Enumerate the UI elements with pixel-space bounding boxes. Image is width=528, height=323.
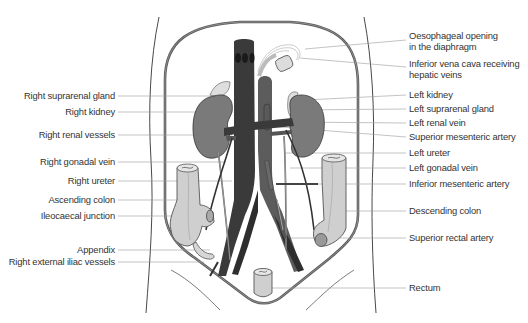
groin-line-left — [171, 270, 220, 310]
label-inferior-mesenteric-artery: Inferior mesenteric artery — [409, 178, 509, 189]
body-outline-right — [364, 17, 376, 313]
groin-line-right — [306, 270, 354, 310]
label-right-renal-vessels: Right renal vessels — [39, 129, 115, 140]
label-ascending-colon: Ascending colon — [48, 194, 115, 205]
label-right-suprarenal-gland: Right suprarenal gland — [24, 90, 115, 101]
body-outline-left — [146, 17, 159, 313]
rectum — [254, 269, 272, 297]
label-oesophageal-opening-line2: in the diaphragm — [409, 41, 498, 52]
ascending-colon — [170, 164, 214, 259]
label-oesophageal-opening-line1: Oesophageal opening — [409, 30, 498, 41]
label-left-suprarenal-gland: Left suprarenal gland — [409, 103, 494, 114]
label-superior-rectal-artery: Superior rectal artery — [409, 232, 493, 243]
label-left-kidney: Left kidney — [409, 89, 453, 100]
label-inferior-vena-cava-line2: hepatic veins — [409, 69, 519, 80]
label-left-gonadal-vein: Left gonadal vein — [409, 162, 478, 173]
right-kidney — [193, 95, 232, 158]
label-inferior-vena-cava: Inferior vena cava receiving hepatic vei… — [409, 58, 519, 80]
label-inferior-vena-cava-line1: Inferior vena cava receiving — [409, 58, 519, 69]
label-left-renal-vein: Left renal vein — [409, 117, 466, 128]
oesophageal-opening — [258, 45, 300, 76]
label-rectum: Rectum — [409, 282, 440, 293]
label-left-ureter: Left ureter — [409, 147, 450, 158]
appendix — [193, 242, 214, 259]
label-appendix: Appendix — [77, 244, 115, 255]
label-oesophageal-opening: Oesophageal opening in the diaphragm — [409, 30, 498, 52]
label-right-gonadal-vein: Right gonadal vein — [40, 156, 115, 167]
label-descending-colon: Descending colon — [409, 205, 481, 216]
posterior-abdominal-wall-diagram: Right suprarenal gland Right kidney Righ… — [0, 0, 528, 323]
label-right-ureter: Right ureter — [68, 175, 115, 186]
label-right-kidney: Right kidney — [65, 106, 115, 117]
label-right-external-iliac-vessels: Right external iliac vessels — [9, 256, 115, 267]
label-ileocaecal-junction: Ileocaecal junction — [41, 210, 115, 221]
label-superior-mesenteric-artery: Superior mesenteric artery — [409, 131, 516, 142]
